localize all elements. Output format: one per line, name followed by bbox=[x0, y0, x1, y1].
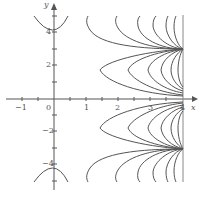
x-tick-label: −1 bbox=[15, 104, 27, 112]
y-axis-label: y bbox=[44, 1, 49, 9]
x-tick-label: 2 bbox=[115, 104, 120, 112]
y-tick-label: −2 bbox=[42, 127, 54, 135]
x-axis-label: x bbox=[191, 104, 196, 112]
y-axis-arrow-icon bbox=[51, 3, 57, 10]
x-tick-label: 3 bbox=[148, 104, 153, 112]
y-tick-label: 4 bbox=[46, 28, 51, 36]
y-tick-label: −4 bbox=[42, 160, 54, 168]
lower-arc bbox=[34, 168, 68, 182]
plot-canvas bbox=[0, 0, 199, 199]
x-tick-label: 0 bbox=[46, 104, 51, 112]
upper-curves bbox=[87, 16, 183, 96]
lower-curves bbox=[87, 102, 183, 182]
y-tick-label: 2 bbox=[46, 61, 51, 69]
x-tick-label: 1 bbox=[84, 104, 89, 112]
plot: y x −1 0 1 2 3 4 4 2 −2 −4 bbox=[0, 0, 199, 199]
x-axis-arrow-icon bbox=[192, 96, 198, 102]
x-tick-label: 4 bbox=[180, 104, 185, 112]
